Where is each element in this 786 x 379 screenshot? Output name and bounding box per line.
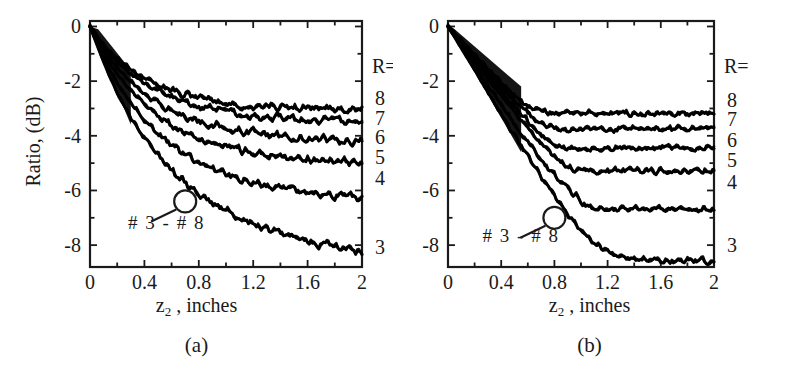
legend-r-label-4: 4 [727,171,737,193]
legend-r-label-3: 3 [375,236,385,258]
x-tick-label: 2 [357,271,367,293]
x-tick-label: 1.6 [648,271,673,293]
chart-panel-b: 00.40.81.21.620-2-4-6-8R=876543# 3 - # 8… [393,0,786,379]
panel-caption-b: (b) [393,333,786,358]
legend-r-label-7: 7 [727,108,737,130]
x-tick-label: 1.2 [595,271,620,293]
y-tick-label: -8 [422,234,439,256]
x-tick-label: 0.8 [542,271,567,293]
y-tick-label: -6 [422,179,439,201]
series-range-annotation: # 3 - # 8 [128,212,205,233]
y-tick-label: -4 [64,125,81,147]
x-tick-label: 1.2 [241,271,266,293]
x-tick-label: 0 [85,271,95,293]
legend-r-label-5: 5 [727,149,737,171]
legend-r-header: R= [372,55,393,77]
x-tick-label: 0.4 [132,271,157,293]
y-tick-label: -6 [64,179,81,201]
x-tick-label: 1.6 [295,271,320,293]
legend-r-label-6: 6 [727,129,737,151]
plot-svg-b: 00.40.81.21.620-2-4-6-8R=876543# 3 - # 8 [393,0,786,379]
legend-r-label-5: 5 [375,146,385,168]
figure-container: 00.40.81.21.620-2-4-6-8R=876543# 3 - # 8… [0,0,786,379]
y-tick-label: -8 [64,234,81,256]
y-tick-label: -2 [422,70,439,92]
chart-panel-a: 00.40.81.21.620-2-4-6-8R=876543# 3 - # 8… [0,0,393,379]
x-tick-label: 0.4 [489,271,514,293]
legend-r-header: R= [724,55,749,77]
plot-svg-a: 00.40.81.21.620-2-4-6-8R=876543# 3 - # 8 [0,0,393,379]
x-axis-title-main: z [549,294,558,316]
panel-caption-a: (a) [0,333,393,358]
y-tick-label: 0 [71,15,81,37]
y-tick-label: 0 [429,15,439,37]
x-axis-title-main: z [156,294,165,316]
x-axis-title-rest: , inches [171,294,237,316]
legend-r-label-6: 6 [375,126,385,148]
x-axis-title-b: z2 , inches [393,294,786,320]
y-axis-title: Ratio, (dB) [22,47,45,237]
series-range-annotation: # 3 - # 8 [483,225,560,246]
x-tick-label: 0.8 [186,271,211,293]
y-tick-label: -2 [64,70,81,92]
legend-r-label-3: 3 [727,234,737,256]
x-axis-title-a: z2 , inches [0,294,393,320]
x-tick-label: 2 [709,271,719,293]
legend-r-label-4: 4 [375,167,385,189]
y-tick-label: -4 [422,125,439,147]
x-axis-title-rest: , inches [564,294,630,316]
legend-r-label-8: 8 [375,87,385,109]
x-tick-label: 0 [443,271,453,293]
